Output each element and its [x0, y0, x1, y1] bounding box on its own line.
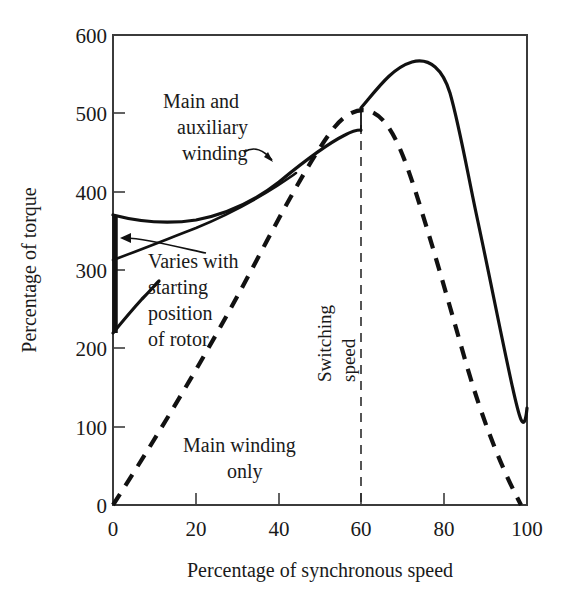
x-axis-title: Percentage of synchronous speed — [187, 559, 453, 582]
annot-varies-line1: Varies with — [148, 250, 239, 272]
y-tick-400: 400 — [76, 181, 108, 205]
x-axis-ticks — [196, 493, 444, 505]
annot-main-only-line1: Main winding — [183, 434, 296, 457]
x-tick-0: 0 — [108, 517, 119, 541]
x-tick-60: 60 — [351, 517, 372, 541]
annotation-switching-speed: Switching speed — [314, 304, 359, 382]
x-tick-100: 100 — [511, 517, 543, 541]
y-axis-tick-labels: 600 500 400 300 200 100 0 — [76, 24, 108, 518]
curve-main-aux-middle — [113, 173, 296, 260]
x-axis-tick-labels: 0 20 40 60 80 100 — [108, 517, 543, 541]
y-axis-title: Percentage of torque — [18, 187, 41, 353]
annot-switching-line1: Switching — [314, 304, 335, 382]
x-tick-40: 40 — [269, 517, 290, 541]
x-tick-20: 20 — [186, 517, 207, 541]
y-tick-500: 500 — [76, 102, 108, 126]
x-tick-80: 80 — [434, 517, 455, 541]
torque-speed-chart: 600 500 400 300 200 100 0 0 20 40 60 80 … — [0, 0, 562, 597]
y-tick-0: 0 — [97, 494, 108, 518]
annot-main-aux-line2: auxiliary — [177, 116, 248, 139]
annot-varies-arrowhead — [120, 233, 131, 243]
curve-running-after-switching — [361, 61, 527, 422]
annot-main-aux-line1: Main and — [163, 90, 239, 112]
y-tick-200: 200 — [76, 337, 108, 361]
annot-main-only-line2: only — [227, 460, 263, 483]
chart-canvas: 600 500 400 300 200 100 0 0 20 40 60 80 … — [0, 0, 562, 597]
annotation-main-winding-only: Main winding only — [183, 434, 296, 483]
annotation-main-and-auxiliary-winding: Main and auxiliary winding — [163, 90, 273, 165]
y-tick-100: 100 — [76, 416, 108, 440]
annot-switching-line2: speed — [338, 338, 359, 382]
y-tick-300: 300 — [76, 259, 108, 283]
annot-varies-line3: position — [148, 302, 212, 325]
y-tick-600: 600 — [76, 24, 108, 48]
annot-main-aux-line3: winding — [182, 142, 248, 165]
annot-varies-line2: starting — [148, 276, 208, 299]
annot-varies-line4: of rotor — [148, 328, 209, 350]
